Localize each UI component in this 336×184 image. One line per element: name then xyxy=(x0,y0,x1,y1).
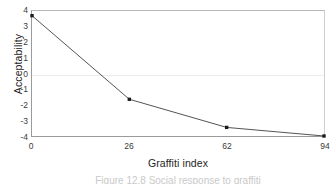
x-axis-tick-labels: 0266294 xyxy=(31,141,325,153)
x-tick-label: 94 xyxy=(320,141,329,151)
y-tick-label: -4 xyxy=(14,133,28,142)
y-tick-label: 1 xyxy=(14,53,28,62)
y-axis-tick-labels: 43210-1-2-3-4 xyxy=(14,10,28,137)
data-point-marker xyxy=(128,98,131,101)
data-point-marker xyxy=(30,14,33,17)
series-line xyxy=(32,16,324,136)
y-tick-label: 0 xyxy=(14,69,28,78)
plot-area xyxy=(31,10,325,137)
y-tick-label: -3 xyxy=(14,117,28,126)
x-axis-title: Graffiti index xyxy=(31,157,325,169)
y-tick-label: -2 xyxy=(14,101,28,110)
figure-caption: Figure 12.8 Social response to graffiti xyxy=(31,175,325,184)
y-tick-label: 3 xyxy=(14,22,28,31)
figure: Acceptability 43210-1-2-3-4 0266294 Graf… xyxy=(0,0,336,184)
data-point-marker xyxy=(225,126,228,129)
x-tick-label: 26 xyxy=(124,141,133,151)
y-tick-label: -1 xyxy=(14,85,28,94)
series-acceptability xyxy=(32,11,324,136)
line-chart: Acceptability 43210-1-2-3-4 0266294 Graf… xyxy=(0,0,336,158)
data-point-marker xyxy=(322,134,325,137)
y-tick-label: 4 xyxy=(14,6,28,15)
x-tick-label: 0 xyxy=(29,141,34,151)
y-tick-label: 2 xyxy=(14,38,28,47)
x-tick-label: 62 xyxy=(222,141,231,151)
